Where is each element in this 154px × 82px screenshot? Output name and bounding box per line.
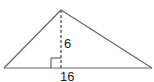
- left-side: [4, 10, 61, 68]
- right-angle-marker: [51, 58, 61, 68]
- right-side: [61, 10, 152, 68]
- triangle-diagram: [0, 0, 154, 82]
- height-label: 6: [64, 37, 71, 50]
- base-label: 16: [60, 70, 74, 82]
